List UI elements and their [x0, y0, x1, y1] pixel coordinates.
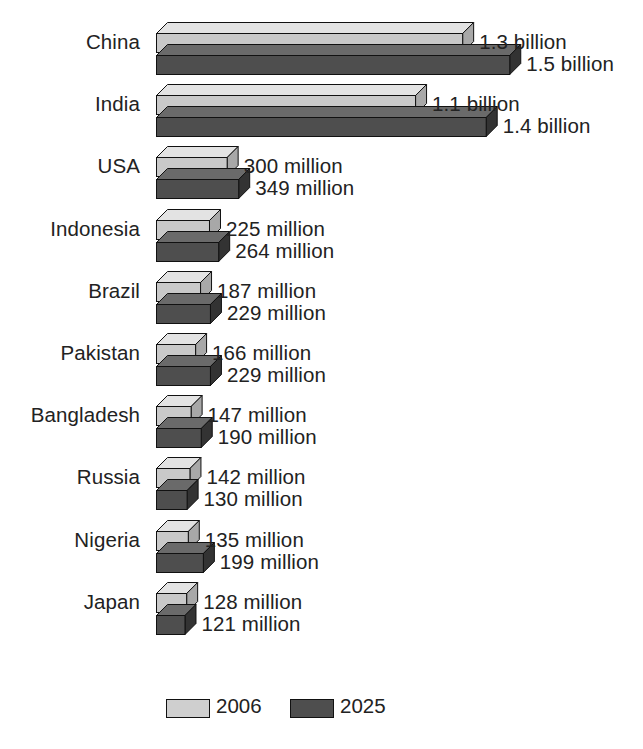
- value-label-2025: 130 million: [204, 487, 303, 511]
- category-label: USA: [0, 154, 140, 178]
- bar-2025: [156, 479, 198, 509]
- value-label-2006: 142 million: [206, 465, 305, 489]
- category-label: Japan: [0, 590, 140, 614]
- bar-2025: [156, 293, 221, 323]
- value-label-2025: 1.5 billion: [526, 52, 614, 76]
- legend-label-2025: 2025: [340, 694, 386, 718]
- value-label-2025: 199 million: [220, 550, 319, 574]
- population-bar-chart: China1.3 billion1.5 billionIndia1.1 bill…: [0, 0, 643, 749]
- value-label-2025: 229 million: [227, 301, 326, 325]
- chart-row-indonesia: Indonesia225 million264 million: [0, 209, 643, 271]
- chart-row-china: China1.3 billion1.5 billion: [0, 22, 643, 84]
- legend-swatch-2025-icon: [290, 699, 334, 718]
- bar-3d-shape: [156, 168, 251, 200]
- chart-row-nigeria: Nigeria135 million199 million: [0, 520, 643, 582]
- bar-3d-shape: [156, 231, 231, 263]
- value-label-2006: 135 million: [205, 528, 304, 552]
- value-label-2025: 190 million: [218, 425, 317, 449]
- chart-legend: 2006 2025: [0, 694, 643, 728]
- bar-3d-shape: [156, 44, 522, 76]
- category-label: China: [0, 30, 140, 54]
- category-label: Indonesia: [0, 217, 140, 241]
- bar-2025: [156, 168, 249, 198]
- value-label-2006: 225 million: [226, 217, 325, 241]
- chart-row-brazil: Brazil187 million229 million: [0, 271, 643, 333]
- legend-swatch-2006-icon: [166, 699, 210, 718]
- value-label-2006: 128 million: [203, 590, 302, 614]
- value-label-2006: 147 million: [208, 403, 307, 427]
- category-label: Bangladesh: [0, 403, 140, 427]
- bar-3d-shape: [156, 417, 214, 449]
- category-label: Pakistan: [0, 341, 140, 365]
- value-label-2006: 166 million: [212, 341, 311, 365]
- chart-row-japan: Japan128 million121 million: [0, 582, 643, 644]
- value-label-2025: 349 million: [255, 176, 354, 200]
- chart-row-russia: Russia142 million130 million: [0, 457, 643, 519]
- bar-3d-shape: [156, 479, 200, 511]
- value-label-2006: 300 million: [244, 154, 343, 178]
- bar-2025: [156, 604, 195, 634]
- chart-row-pakistan: Pakistan166 million229 million: [0, 333, 643, 395]
- value-label-2006: 187 million: [217, 279, 316, 303]
- value-label-2006: 1.1 billion: [432, 92, 520, 116]
- chart-row-india: India1.1 billion1.4 billion: [0, 84, 643, 146]
- bar-2025: [156, 44, 520, 74]
- category-label: Brazil: [0, 279, 140, 303]
- bar-2025: [156, 231, 229, 261]
- value-label-2025: 264 million: [235, 239, 334, 263]
- value-label-2025: 229 million: [227, 363, 326, 387]
- legend-label-2006: 2006: [216, 694, 262, 718]
- chart-row-bangladesh: Bangladesh147 million190 million: [0, 395, 643, 457]
- value-label-2025: 1.4 billion: [503, 114, 591, 138]
- bar-3d-shape: [156, 604, 197, 636]
- chart-row-usa: USA300 million349 million: [0, 146, 643, 208]
- value-label-2025: 121 million: [201, 612, 300, 636]
- bar-3d-shape: [156, 293, 223, 325]
- category-label: Nigeria: [0, 528, 140, 552]
- category-label: India: [0, 92, 140, 116]
- category-label: Russia: [0, 465, 140, 489]
- bar-2025: [156, 417, 212, 447]
- value-label-2006: 1.3 billion: [479, 30, 567, 54]
